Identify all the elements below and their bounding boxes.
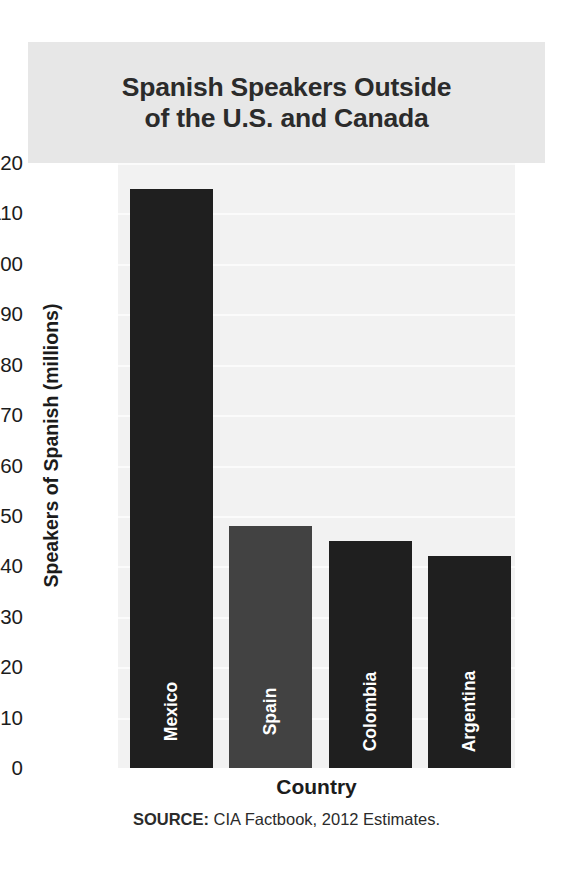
bar-label: Spain xyxy=(260,688,281,736)
bar-label: Colombia xyxy=(360,672,381,752)
y-tick-label: 110 xyxy=(0,201,23,225)
y-tick-label: 90 xyxy=(0,302,23,326)
chart-figure: Spanish Speakers Outside of the U.S. and… xyxy=(28,42,545,845)
y-tick-label: 0 xyxy=(0,756,23,780)
source-text: CIA Factbook, 2012 Estimates. xyxy=(209,810,440,828)
y-tick-label: 120 xyxy=(0,151,23,175)
bar-spain: Spain xyxy=(229,526,312,768)
bar-label: Argentina xyxy=(459,671,480,753)
chart-title-line-2: of the U.S. and Canada xyxy=(144,103,428,134)
y-tick-label: 70 xyxy=(0,403,23,427)
y-axis-title: Speakers of Spanish (millions) xyxy=(40,236,63,656)
bar-label: Mexico xyxy=(161,682,182,741)
gridline xyxy=(118,163,515,165)
y-tick-label: 100 xyxy=(0,252,23,276)
y-tick-label: 30 xyxy=(0,605,23,629)
plot-frame: Speakers of Spanish (millions) 010203040… xyxy=(28,163,545,768)
y-tick-label: 20 xyxy=(0,655,23,679)
y-tick-label: 40 xyxy=(0,554,23,578)
y-tick-label: 60 xyxy=(0,454,23,478)
x-axis-title: Country xyxy=(118,775,515,799)
chart-title-line-1: Spanish Speakers Outside xyxy=(122,72,452,103)
plot-area: MexicoSpainColombiaArgentina xyxy=(118,163,515,768)
bar-argentina: Argentina xyxy=(428,556,511,768)
y-tick-label: 50 xyxy=(0,504,23,528)
y-tick-label: 80 xyxy=(0,353,23,377)
bar-mexico: Mexico xyxy=(130,189,213,768)
source-note: SOURCE: CIA Factbook, 2012 Estimates. xyxy=(28,810,545,829)
bar-colombia: Colombia xyxy=(329,541,412,768)
chart-title-band: Spanish Speakers Outside of the U.S. and… xyxy=(28,42,545,163)
source-label: SOURCE: xyxy=(133,810,209,828)
y-tick-label: 10 xyxy=(0,706,23,730)
